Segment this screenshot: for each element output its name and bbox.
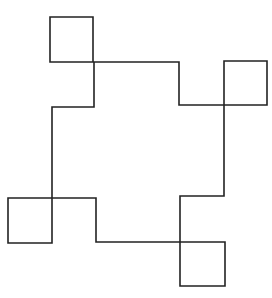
closed-curve-path [8, 17, 267, 286]
rectilinear-loop-diagram [0, 0, 272, 298]
